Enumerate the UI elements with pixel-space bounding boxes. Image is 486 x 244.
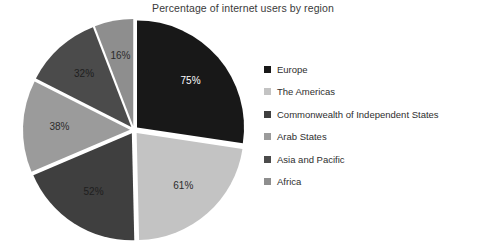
legend-swatch-icon	[264, 133, 271, 140]
chart-page: Percentage of internet users by region 7…	[0, 0, 486, 244]
pie-chart-svg: 75%61%52%38%32%16%	[0, 0, 270, 244]
legend-swatch-icon	[264, 178, 271, 185]
legend-swatch-icon	[264, 111, 271, 118]
legend-item[interactable]: Arab States	[264, 126, 486, 149]
chart-legend: EuropeThe AmericasCommonwealth of Indepe…	[264, 58, 486, 193]
pie-slice-label: 75%	[181, 75, 201, 86]
legend-item-label: Europe	[277, 65, 308, 75]
legend-item[interactable]: Asia and Pacific	[264, 148, 486, 171]
legend-swatch-icon	[264, 156, 271, 163]
legend-item[interactable]: Europe	[264, 58, 486, 81]
pie-slice-label: 52%	[84, 186, 104, 197]
legend-swatch-icon	[264, 88, 271, 95]
pie-chart: 75%61%52%38%32%16%	[0, 0, 270, 244]
pie-slice-label: 32%	[74, 68, 94, 79]
pie-slice-label: 16%	[110, 50, 130, 61]
legend-item[interactable]: Africa	[264, 171, 486, 194]
pie-slice-label: 38%	[49, 121, 69, 132]
legend-item-label: Commonwealth of Independent States	[277, 110, 439, 120]
pie-slice-label: 61%	[173, 180, 193, 191]
legend-swatch-icon	[264, 66, 271, 73]
legend-item[interactable]: The Americas	[264, 81, 486, 104]
legend-item-label: Africa	[277, 177, 301, 187]
legend-item[interactable]: Commonwealth of Independent States	[264, 103, 486, 126]
legend-item-label: Asia and Pacific	[277, 155, 345, 165]
legend-item-label: Arab States	[277, 132, 327, 142]
legend-item-label: The Americas	[277, 87, 335, 97]
